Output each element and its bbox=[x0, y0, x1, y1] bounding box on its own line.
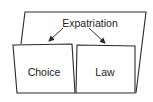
expatriation-diagram: Expatriation Choice Law bbox=[0, 0, 153, 102]
node-law: Law bbox=[95, 66, 114, 78]
node-choice: Choice bbox=[28, 66, 61, 78]
arrow-to-law bbox=[89, 28, 105, 43]
node-expatriation: Expatriation bbox=[62, 17, 117, 29]
diagram-canvas bbox=[0, 0, 153, 102]
arrow-to-choice bbox=[49, 28, 63, 41]
